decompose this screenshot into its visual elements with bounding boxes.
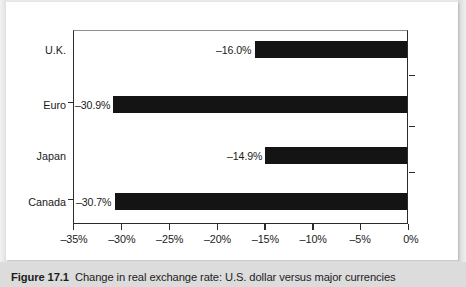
x-tick-label-n5: –5% <box>349 233 370 245</box>
category-label-uk: U.K. <box>45 44 66 56</box>
figure-caption: Figure 17.1 Change in real exchange rate… <box>11 271 396 283</box>
x-tick-mark-n10 <box>312 224 313 230</box>
x-tick-label-n15: –15% <box>252 233 279 245</box>
category-label-euro: Euro <box>43 99 66 111</box>
figure-caption-number: Figure 17.1 <box>11 271 69 283</box>
figure-panel: U.K. Euro Japan Canada –16.0% –30.9% –14… <box>6 2 458 260</box>
x-tick-mark-n35 <box>73 224 74 230</box>
bar-canada[interactable] <box>115 193 407 210</box>
bar-uk[interactable] <box>255 41 407 58</box>
bar-chart: U.K. Euro Japan Canada –16.0% –30.9% –14… <box>6 2 458 260</box>
bar-euro[interactable] <box>113 96 407 113</box>
x-tick-mark-n25 <box>169 224 170 230</box>
axis-tick-right-1 <box>409 75 415 76</box>
figure-caption-band: Figure 17.1 Change in real exchange rate… <box>0 262 466 287</box>
x-tick-label-0: 0% <box>403 233 418 245</box>
x-tick-mark-n5 <box>360 224 361 230</box>
category-label-japan: Japan <box>37 150 66 162</box>
x-tick-label-n20: –20% <box>204 233 231 245</box>
x-tick-mark-n20 <box>217 224 218 230</box>
x-tick-label-n30: –30% <box>108 233 135 245</box>
figure-caption-body: Change in real exchange rate: U.S. dolla… <box>75 271 396 283</box>
axis-tick-left-1 <box>68 102 74 103</box>
x-tick-mark-0 <box>408 224 409 230</box>
data-label-uk: –16.0% <box>216 44 251 56</box>
x-tick-mark-n15 <box>264 224 265 230</box>
plot-area <box>73 30 408 224</box>
axis-tick-right-2 <box>409 126 415 127</box>
axis-tick-right-3 <box>409 172 415 173</box>
category-label-canada: Canada <box>28 196 66 208</box>
data-label-euro: –30.9% <box>75 99 110 111</box>
scanned-page-background: U.K. Euro Japan Canada –16.0% –30.9% –14… <box>0 0 466 287</box>
axis-tick-left-2 <box>68 199 74 200</box>
x-tick-mark-n30 <box>121 224 122 230</box>
data-label-canada: –30.7% <box>76 196 111 208</box>
data-label-japan: –14.9% <box>227 150 262 162</box>
x-tick-label-n25: –25% <box>156 233 183 245</box>
bar-japan[interactable] <box>265 147 407 164</box>
x-tick-label-n10: –10% <box>300 233 327 245</box>
x-tick-label-n35: –35% <box>60 233 87 245</box>
page-right-edge-shadow <box>458 0 466 287</box>
